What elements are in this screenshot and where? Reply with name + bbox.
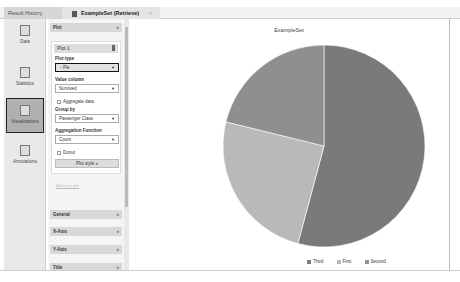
chevron-down-icon: ▼ xyxy=(111,85,115,93)
legend-swatch xyxy=(365,260,369,264)
section-x-axis[interactable]: X-Axis» xyxy=(50,227,122,236)
table-icon xyxy=(72,11,77,17)
divider xyxy=(0,270,460,271)
pie-chart xyxy=(129,19,450,270)
legend-swatch xyxy=(337,260,341,264)
section-plot[interactable]: Plot« xyxy=(50,23,122,32)
group-by-select[interactable]: Passenger Class▼ xyxy=(55,114,119,123)
plot-box: Plot 1 Plot type ◔ Pie▼ Value column Sur… xyxy=(51,41,121,174)
aggregate-checkbox[interactable]: Aggregate data xyxy=(57,99,94,104)
annotations-icon xyxy=(20,145,30,156)
view-sidebar: Data Statistics Visualizations Annotatio… xyxy=(4,19,46,270)
tab-bar: Result History ExampleSet (Retrieve)× xyxy=(0,7,460,19)
donut-checkbox[interactable]: Donut xyxy=(57,150,75,155)
group-by-label: Group by xyxy=(55,107,75,112)
checkbox-checked xyxy=(57,100,61,104)
legend-item-second[interactable]: Second xyxy=(365,259,392,264)
section-title[interactable]: Title» xyxy=(50,263,122,270)
plot-name: Plot 1 xyxy=(54,44,118,53)
trash-icon[interactable] xyxy=(112,45,115,51)
plot-config-panel: Plot« Plot 1 Plot type ◔ Pie▼ Value colu… xyxy=(48,19,124,270)
plot-style-button[interactable]: Plot style » xyxy=(55,159,119,168)
tab-result-history[interactable]: Result History xyxy=(4,7,62,19)
nav-statistics[interactable]: Statistics xyxy=(6,65,44,95)
chart-area: ExampleSet Third First Second xyxy=(129,19,450,270)
chevron-down-icon: ▼ xyxy=(111,64,115,72)
close-icon[interactable]: × xyxy=(149,7,152,19)
statistics-icon xyxy=(20,67,30,78)
add-new-plot-link[interactable]: Add new plot xyxy=(56,183,79,188)
legend-item-first[interactable]: First xyxy=(337,259,358,264)
aggregation-function-label: Aggregation Function xyxy=(55,128,102,133)
chevron-down-icon: ▼ xyxy=(111,136,115,144)
section-general[interactable]: General» xyxy=(50,210,122,219)
nav-data[interactable]: Data xyxy=(6,23,44,53)
plot-type-label: Plot type xyxy=(55,56,74,61)
visualizations-icon xyxy=(20,105,30,116)
collapse-icon[interactable]: « xyxy=(116,23,119,32)
scrollbar-thumb[interactable] xyxy=(125,27,128,207)
value-column-select[interactable]: Survived▼ xyxy=(55,84,119,93)
aggregation-function-select[interactable]: Count▼ xyxy=(55,135,119,144)
plot-type-select[interactable]: ◔ Pie▼ xyxy=(55,63,119,72)
value-column-label: Value column xyxy=(55,77,84,82)
data-icon xyxy=(20,25,30,36)
chart-legend: Third First Second xyxy=(307,259,398,264)
chevron-down-icon: ▼ xyxy=(111,115,115,123)
section-y-axis[interactable]: Y-Axis» xyxy=(50,245,122,254)
tab-exampleset[interactable]: ExampleSet (Retrieve)× xyxy=(62,7,160,19)
legend-item-third[interactable]: Third xyxy=(307,259,329,264)
legend-swatch xyxy=(307,260,311,264)
nav-annotations[interactable]: Annotations xyxy=(6,143,44,173)
nav-visualizations[interactable]: Visualizations xyxy=(6,98,44,133)
